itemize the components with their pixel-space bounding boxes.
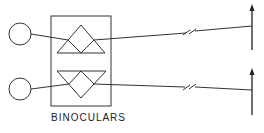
upper-light-path [31,26,252,40]
upper-target-arrow-icon [250,4,255,50]
lower-eye-icon [9,78,31,100]
binoculars-label: BINOCULARS [51,112,113,123]
binoculars-diagram [0,0,264,133]
lower-light-path [31,84,252,90]
binoculars-box [51,16,111,106]
upper-eye-icon [9,23,31,45]
lower-target-arrow-icon [250,68,255,115]
